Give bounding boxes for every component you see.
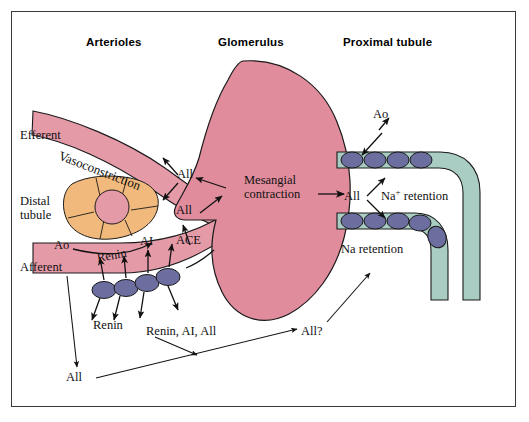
label-mesangial-line1: Mesangial: [244, 174, 296, 188]
header-arterioles: Arterioles: [86, 36, 142, 48]
label-distal-tubule-line1: Distal: [20, 195, 50, 209]
label-aii-bottom: All: [66, 371, 82, 385]
arrow-renin-out: [168, 286, 178, 310]
arrow-renin-out: [92, 298, 100, 320]
label-aii-afferent: All: [176, 204, 192, 218]
figure-container: Arterioles Glomerulus Proximal tubule Ef…: [0, 0, 529, 422]
macula-densa-lumen: [95, 190, 129, 224]
label-ai: AI: [140, 235, 153, 249]
label-aii-efferent: All: [177, 168, 193, 182]
arrow-renin-out: [140, 292, 144, 318]
label-renin-ai-aii: Renin, AI, All: [146, 325, 216, 339]
tubule-cell: [341, 213, 363, 229]
tubule-cell: [364, 152, 386, 168]
jg-cell: [114, 280, 138, 297]
label-ace: ACE: [176, 234, 201, 248]
label-aii-question: All?: [301, 325, 323, 339]
label-efferent-arteriole: Efferent: [20, 129, 61, 143]
label-ao-afferent: Ao: [54, 239, 69, 253]
header-proximal-tubule: Proximal tubule: [343, 36, 432, 48]
label-afferent-arteriole: Afferent: [20, 261, 62, 275]
label-aii-proximal: All: [344, 190, 360, 204]
header-glomerulus: Glomerulus: [218, 36, 284, 48]
tubule-cell: [410, 152, 432, 168]
jg-cell: [135, 275, 159, 292]
arrow-aii-question-to-na-retention: [327, 273, 370, 322]
retention-text: retention: [401, 189, 449, 203]
arrow-afferent-to-aii-bottom: [67, 276, 77, 367]
label-na-plus-retention: Na+ retention: [381, 190, 448, 204]
arrow-renin-ai-aii: [155, 337, 197, 355]
na-text: Na: [381, 189, 396, 203]
label-na-retention: Na retention: [341, 243, 403, 257]
label-mesangial-line2: contraction: [244, 188, 300, 202]
arrow-renin-out: [114, 296, 120, 320]
label-distal-tubule-line2: tubule: [20, 209, 51, 223]
tubule-cell: [409, 215, 431, 231]
jg-cell: [92, 282, 116, 299]
jg-cell: [156, 269, 180, 286]
tubule-cell: [341, 152, 363, 168]
tubule-cell: [387, 152, 409, 168]
label-renin-secretion: Renin: [93, 319, 123, 333]
diagram-illustration: [0, 0, 529, 422]
label-ao-proximal: Ao: [373, 108, 388, 122]
tubule-cell: [387, 213, 409, 229]
